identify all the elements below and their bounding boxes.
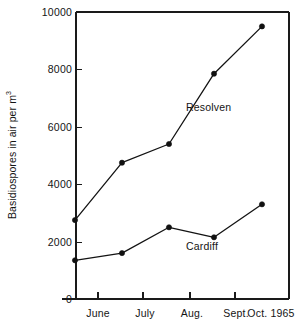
series-line-cardiff: [75, 204, 262, 260]
data-point-cardiff-1: [119, 251, 124, 256]
data-point-cardiff-0: [72, 258, 77, 263]
series-layer: [72, 24, 264, 263]
data-point-resolven-3: [211, 71, 216, 76]
data-point-resolven-4: [259, 24, 264, 29]
plot-area: [0, 0, 305, 332]
data-point-cardiff-3: [211, 235, 216, 240]
data-point-resolven-1: [119, 160, 124, 165]
chart-figure: Basidiospores in air per m3 10000 8000 6…: [0, 0, 305, 332]
data-point-cardiff-2: [166, 225, 171, 230]
data-point-resolven-2: [166, 141, 171, 146]
data-point-resolven-0: [72, 218, 77, 223]
series-line-resolven: [75, 26, 262, 220]
data-point-cardiff-4: [259, 202, 264, 207]
